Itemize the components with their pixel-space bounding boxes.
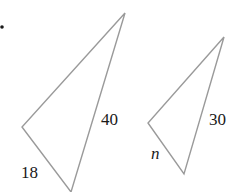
bullet-dot [0, 25, 4, 29]
large-triangle-side-label-18: 18 [21, 163, 38, 182]
small-triangle-side-label-30: 30 [209, 110, 226, 129]
small-triangle-side-label-n: n [151, 144, 160, 163]
large-triangle-side-label-40: 40 [101, 110, 118, 129]
similar-triangles-diagram: 40 18 30 n [0, 0, 244, 192]
